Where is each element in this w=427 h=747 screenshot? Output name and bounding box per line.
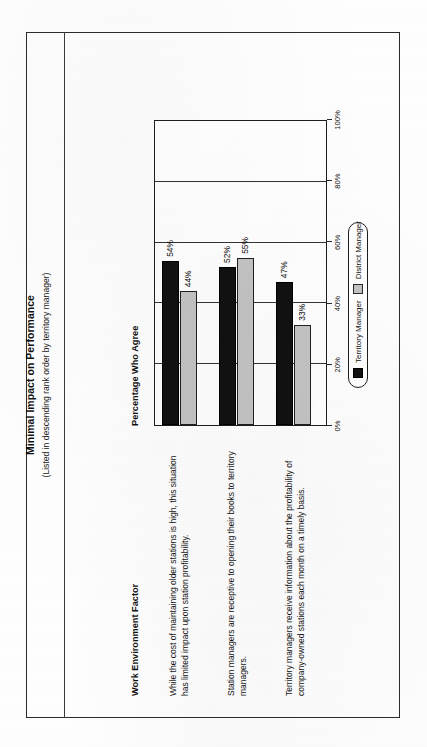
chart-legend: Territory Manager District Manager [348,222,368,388]
axis-tick-60 [327,241,332,242]
column-header-percentage-who-agree: Percentage Who Agree [130,166,140,426]
scanned-page: Minimal Impact on Performance (Listed in… [0,0,427,747]
bar-label: 55% [240,237,250,254]
chart-plot-area: 54% 44% 52% 55% 47% 33% [154,120,327,426]
rotated-page-content: Minimal Impact on Performance (Listed in… [18,30,410,718]
list-item: Territory managers receive information a… [284,450,307,696]
column-header-work-environment-factor: Work Environment Factor [130,456,140,696]
bar-label: 54% [165,240,175,257]
page-subtitle: (Listed in descending rank order by terr… [41,32,51,718]
bar-district-manager-row1 [180,291,197,425]
bar-label: 33% [297,303,307,320]
legend-label: Territory Manager [353,300,362,363]
axis-tick-label-0: 0% [333,420,342,431]
bar-district-manager-row2 [237,257,254,424]
axis-tick-20 [327,363,332,364]
legend-label: District Manager [353,221,362,279]
axis-tick-80 [327,180,332,181]
axis-tick-40 [327,302,332,303]
axis-tick-0 [327,425,332,426]
axis-tick-label-20: 20% [333,357,342,372]
bar-territory-manager-row1 [162,260,179,424]
black-square-swatch-icon [353,368,363,378]
gridline-80 [155,180,326,181]
axis-tick-label-60: 60% [333,234,342,249]
bar-territory-manager-row3 [276,282,293,425]
list-item: While the cost of maintaining older stat… [168,450,191,696]
gray-square-swatch-icon [353,284,363,294]
bar-label: 44% [183,270,193,287]
page-title: Minimal Impact on Performance [25,32,36,718]
bar-label: 47% [279,261,289,278]
list-item: Station managers are receptive to openin… [226,450,249,696]
axis-tick-label-100: 100% [333,110,342,129]
axis-tick-label-80: 80% [333,173,342,188]
value-axis-line [154,425,331,426]
axis-tick-label-40: 40% [333,296,342,311]
legend-item-district-manager: District Manager [353,221,363,294]
bar-label: 52% [222,246,232,263]
bar-territory-manager-row2 [219,266,236,424]
axis-tick-100 [327,119,332,120]
bar-district-manager-row3 [294,324,311,424]
header-divider [64,32,65,718]
legend-item-territory-manager: Territory Manager [353,300,363,378]
